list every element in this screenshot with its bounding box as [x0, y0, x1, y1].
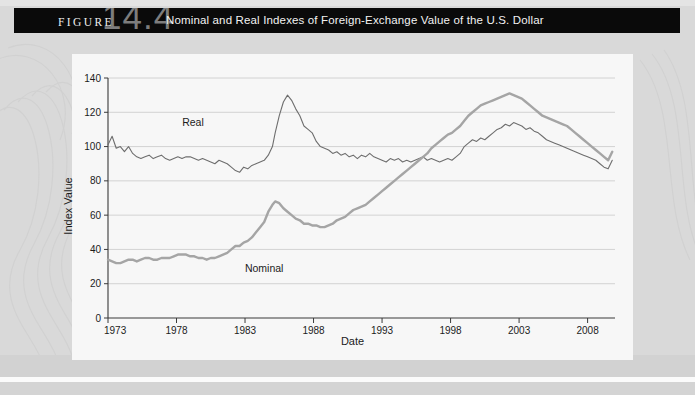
- y-axis-title: Index Value: [62, 177, 74, 234]
- y-tick-label: 80: [90, 175, 102, 186]
- series-annotation: Nominal: [245, 262, 284, 274]
- y-tick-label: 140: [84, 73, 101, 84]
- y-tick-label: 20: [90, 278, 102, 289]
- y-tick-label: 40: [90, 244, 102, 255]
- x-axis-title: Date: [72, 335, 633, 347]
- figure-number-label: 14.4: [102, 8, 174, 33]
- series-line-real: [108, 95, 612, 172]
- chart-panel: 0204060801001201401973197819831988199319…: [72, 54, 633, 360]
- figure-title-text: Nominal and Real Indexes of Foreign-Exch…: [166, 14, 544, 26]
- y-tick-label: 60: [90, 210, 102, 221]
- series-annotation: Real: [182, 116, 204, 128]
- figure-header-bar: FIGURE 14.4 Nominal and Real Indexes of …: [14, 8, 680, 33]
- y-tick-label: 0: [95, 313, 101, 324]
- page-top-band: [0, 0, 695, 6]
- line-chart: 0204060801001201401973197819831988199319…: [72, 54, 633, 360]
- y-tick-label: 120: [84, 107, 101, 118]
- y-tick-label: 100: [84, 141, 101, 152]
- page-bottom-band: [0, 382, 695, 395]
